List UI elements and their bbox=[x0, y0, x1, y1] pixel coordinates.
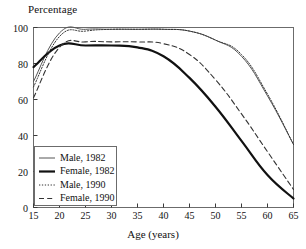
x-tick-label: 25 bbox=[81, 210, 91, 221]
x-tick-label: 30 bbox=[107, 210, 117, 221]
x-tick-label: 60 bbox=[263, 210, 273, 221]
legend-label-2: Male, 1990 bbox=[60, 179, 106, 190]
x-tick-label: 15 bbox=[29, 210, 39, 221]
x-tick-label: 65 bbox=[289, 210, 299, 221]
y-tick-label: 0 bbox=[0, 202, 28, 213]
y-tick-label: 60 bbox=[0, 94, 28, 105]
x-tick-label: 20 bbox=[55, 210, 65, 221]
x-tick-label: 45 bbox=[185, 210, 195, 221]
y-tick-label: 40 bbox=[0, 130, 28, 141]
y-tick-label: 80 bbox=[0, 58, 28, 69]
x-tick-label: 40 bbox=[159, 210, 169, 221]
plot-area bbox=[0, 0, 306, 249]
x-tick-label: 50 bbox=[211, 210, 221, 221]
x-tick-label: 35 bbox=[133, 210, 143, 221]
legend-label-3: Female, 1990 bbox=[60, 192, 114, 203]
legend-label-1: Female, 1982 bbox=[60, 165, 114, 176]
legend-label-0: Male, 1982 bbox=[60, 152, 106, 163]
x-tick-label: 55 bbox=[237, 210, 247, 221]
chart-figure: Percentage 1520253035404550556065 020406… bbox=[0, 0, 306, 249]
y-tick-label: 20 bbox=[0, 166, 28, 177]
y-axis-title: Percentage bbox=[28, 3, 77, 15]
x-axis-title: Age (years) bbox=[0, 228, 306, 240]
y-tick-label: 100 bbox=[0, 22, 28, 33]
